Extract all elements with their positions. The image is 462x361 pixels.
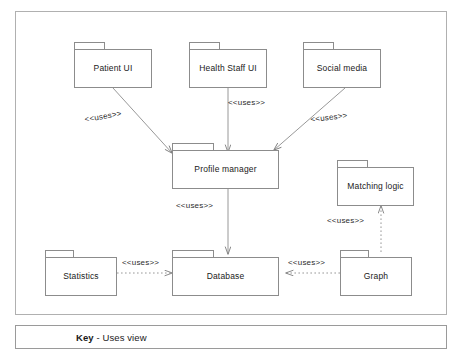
package-graph[interactable]: Graph	[340, 250, 412, 296]
package-body: Matching logic	[337, 167, 414, 206]
package-body: Patient UI	[74, 49, 152, 88]
edge-label-graph-uses: <<uses>>	[288, 258, 325, 267]
package-label: Database	[207, 272, 245, 281]
package-tab-icon	[172, 250, 214, 257]
package-body: Database	[172, 257, 279, 296]
package-label: Patient UI	[94, 64, 133, 73]
package-tab-icon	[303, 42, 334, 49]
package-tab-icon	[340, 250, 369, 257]
edge-label-profile-manager-uses: <<uses>>	[176, 201, 213, 210]
package-matching-logic[interactable]: Matching logic	[337, 160, 414, 206]
package-label: Profile manager	[194, 165, 256, 174]
package-patient-ui[interactable]: Patient UI	[74, 42, 152, 88]
package-label: Matching logic	[347, 182, 403, 191]
package-profile-manager[interactable]: Profile manager	[172, 143, 279, 189]
package-body: Statistics	[45, 257, 117, 296]
edge-label-statistics-uses: <<uses>>	[122, 258, 159, 267]
package-statistics[interactable]: Statistics	[45, 250, 117, 296]
package-database[interactable]: Database	[172, 250, 279, 296]
legend-text: Key - Uses view	[76, 332, 147, 343]
package-label: Health Staff UI	[199, 64, 256, 73]
uml-uses-view-diagram: <<uses>> <<uses>> <<uses>> <<uses>> <<us…	[0, 0, 462, 361]
legend-key-word: Key	[76, 332, 94, 343]
package-tab-icon	[337, 160, 368, 167]
package-tab-icon	[74, 42, 105, 49]
package-tab-icon	[45, 250, 74, 257]
package-body: Social media	[303, 49, 381, 88]
package-label: Graph	[364, 272, 388, 281]
package-social-media[interactable]: Social media	[303, 42, 381, 88]
package-body: Profile manager	[172, 150, 279, 189]
package-body: Health Staff UI	[189, 49, 267, 88]
package-tab-icon	[172, 143, 214, 150]
package-health-staff-ui[interactable]: Health Staff UI	[189, 42, 267, 88]
package-label: Statistics	[63, 272, 99, 281]
package-tab-icon	[189, 42, 220, 49]
package-label: Social media	[317, 64, 367, 73]
package-body: Graph	[340, 257, 412, 296]
edge-label-health-staff-uses: <<uses>>	[228, 98, 265, 107]
edge-label-graph-matching-uses: <<uses>>	[327, 216, 364, 225]
legend-view-name: Uses view	[102, 332, 146, 343]
legend-bar: Key - Uses view	[15, 325, 447, 349]
